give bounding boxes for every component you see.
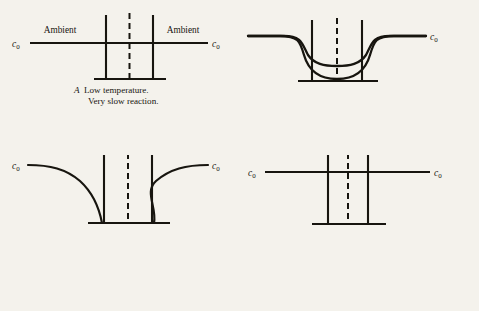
panel-c-svg: c0 c0 xyxy=(0,155,239,243)
panel-d: c0 c0 DHomogeneous reaction in ambient f… xyxy=(240,155,479,310)
panel-d-diagram: c0 c0 xyxy=(240,155,479,243)
panel-a-svg: c0 c0 Ambient Ambient xyxy=(0,0,239,88)
concentration-profile-right xyxy=(151,165,208,223)
panel-a-tag: A xyxy=(74,85,84,96)
panel-d-svg: c0 c0 xyxy=(240,155,479,243)
c0-label-right: c0 xyxy=(212,161,220,173)
panel-b-svg: c0 c0 xyxy=(240,0,479,88)
c0-label-right: c0 xyxy=(434,168,442,180)
panel-a-caption: ALow temperature. Very slow reaction. xyxy=(74,85,158,106)
c0-label-left: c0 xyxy=(12,39,20,51)
panel-a-caption-line-2: Very slow reaction. xyxy=(74,96,158,107)
panel-c-diagram: c0 c0 xyxy=(0,155,239,243)
panel-a-diagram: c0 c0 Ambient Ambient xyxy=(0,0,239,88)
c0-label-left: c0 xyxy=(248,168,256,180)
panel-a-caption-line-1: Low temperature. xyxy=(84,85,149,95)
ambient-label-left: Ambient xyxy=(44,25,77,35)
panel-c: c0 c0 CVery active catalyst. Reaction oc… xyxy=(0,155,239,310)
concentration-profile-left xyxy=(28,165,102,223)
figure-page: c0 c0 Ambient Ambient ALow temperature. … xyxy=(0,0,479,311)
panel-b: c0 c0 BPotential available to cause reac… xyxy=(240,0,479,155)
c0-label-left: c0 xyxy=(12,161,20,173)
ambient-label-right: Ambient xyxy=(167,25,200,35)
panel-b-diagram: c0 c0 xyxy=(240,0,479,88)
panel-a: c0 c0 Ambient Ambient ALow temperature. … xyxy=(0,0,239,155)
c0-label-right: c0 xyxy=(212,39,220,51)
c0-label-right: c0 xyxy=(430,32,438,44)
